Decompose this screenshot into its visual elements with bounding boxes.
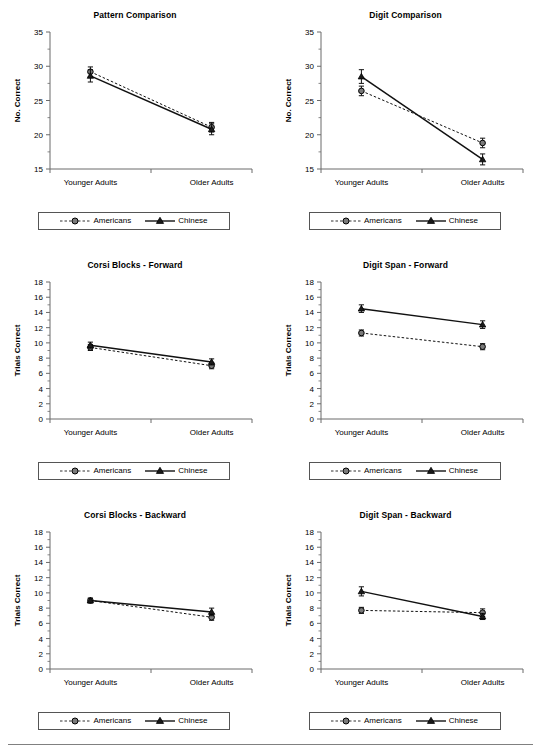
- y-axis-tick-label: 2: [39, 400, 44, 409]
- y-axis-tick-label: 20: [34, 131, 43, 140]
- chart-svg: 024681012141618Younger AdultsOlder Adult…: [271, 524, 541, 699]
- y-axis-tick-label: 20: [305, 131, 314, 140]
- y-axis-tick-label: 15: [34, 165, 43, 174]
- y-axis-tick-label: 18: [305, 528, 314, 537]
- legend-label-americans: Americans: [364, 216, 402, 226]
- chinese-line-marker-icon: [416, 216, 446, 226]
- panel-title: Pattern Comparison: [0, 10, 270, 21]
- y-axis-title: Trials Correct: [284, 574, 293, 626]
- legend-entry-americans: Americans: [331, 716, 402, 726]
- y-axis-tick-label: 2: [309, 650, 314, 659]
- plot-area: 1520253035Younger AdultsOlder AdultsNo. …: [271, 24, 541, 199]
- series-line: [90, 347, 211, 365]
- x-axis-category-label: Younger Adults: [334, 428, 388, 437]
- series-line: [361, 77, 482, 160]
- y-axis-tick-label: 4: [39, 635, 44, 644]
- data-point-circle-marker: [358, 330, 364, 336]
- americans-line-marker-icon: [331, 216, 361, 226]
- y-axis-tick-label: 10: [34, 589, 43, 598]
- legend-entry-chinese: Chinese: [416, 716, 478, 726]
- y-axis-tick-label: 35: [34, 28, 43, 37]
- footer-divider: [8, 744, 533, 745]
- y-axis-tick-label: 18: [305, 278, 314, 287]
- legend-entry-americans: Americans: [60, 216, 131, 226]
- legend-label-americans: Americans: [93, 716, 131, 726]
- series-line: [361, 591, 482, 616]
- y-axis-tick-label: 12: [305, 324, 314, 333]
- panel-grid: Pattern Comparison 1520253035Younger Adu…: [0, 0, 541, 750]
- panel-title: Corsi Blocks - Forward: [0, 260, 270, 271]
- x-axis-category-label: Younger Adults: [64, 428, 118, 437]
- chinese-line-marker-icon: [145, 716, 175, 726]
- y-axis-tick-label: 12: [305, 574, 314, 583]
- x-axis-category-label: Older Adults: [460, 678, 504, 687]
- series-line: [361, 333, 482, 347]
- legend-entry-chinese: Chinese: [145, 716, 207, 726]
- panel-digit-comparison: Digit Comparison 1520253035Younger Adult…: [271, 0, 541, 250]
- y-axis-tick-label: 25: [34, 97, 43, 106]
- y-axis-tick-label: 2: [309, 400, 314, 409]
- legend-label-americans: Americans: [93, 216, 131, 226]
- y-axis-tick-label: 6: [309, 619, 314, 628]
- y-axis-tick-label: 12: [34, 324, 43, 333]
- y-axis-tick-label: 16: [305, 543, 314, 552]
- americans-line-marker-icon: [331, 716, 361, 726]
- data-point-circle-marker: [479, 140, 485, 146]
- y-axis-tick-label: 16: [305, 293, 314, 302]
- series-line: [90, 601, 211, 612]
- legend-label-americans: Americans: [364, 716, 402, 726]
- y-axis-tick-label: 14: [34, 308, 43, 317]
- y-axis-tick-label: 15: [305, 165, 314, 174]
- legend-label-chinese: Chinese: [178, 216, 207, 226]
- series-line: [361, 309, 482, 325]
- legend-entry-chinese: Chinese: [416, 466, 478, 476]
- y-axis-tick-label: 0: [39, 665, 44, 674]
- chinese-line-marker-icon: [145, 216, 175, 226]
- x-axis-category-label: Older Adults: [460, 178, 504, 187]
- panel-digit-span-forward: Digit Span - Forward 024681012141618Youn…: [271, 250, 541, 500]
- plot-area: 024681012141618Younger AdultsOlder Adult…: [0, 274, 270, 449]
- y-axis-title: Trials Correct: [13, 324, 22, 376]
- y-axis-tick-label: 8: [39, 354, 44, 363]
- y-axis-tick-label: 6: [39, 619, 44, 628]
- legend-entry-chinese: Chinese: [416, 216, 478, 226]
- legend-entry-americans: Americans: [331, 216, 402, 226]
- y-axis-title: Trials Correct: [13, 574, 22, 626]
- panel-pattern-comparison: Pattern Comparison 1520253035Younger Adu…: [0, 0, 270, 250]
- legend: Americans Chinese: [38, 462, 230, 480]
- legend: Americans Chinese: [38, 212, 230, 230]
- panel-title: Digit Span - Backward: [271, 510, 541, 521]
- panel-digit-span-backward: Digit Span - Backward 024681012141618You…: [271, 500, 541, 750]
- legend-entry-chinese: Chinese: [145, 466, 207, 476]
- chinese-line-marker-icon: [416, 466, 446, 476]
- y-axis-title: Trials Correct: [284, 324, 293, 376]
- y-axis-tick-label: 18: [34, 278, 43, 287]
- legend: Americans Chinese: [309, 462, 501, 480]
- legend-entry-americans: Americans: [60, 716, 131, 726]
- y-axis-tick-label: 4: [309, 635, 314, 644]
- chinese-line-marker-icon: [145, 466, 175, 476]
- x-axis-category-label: Older Adults: [460, 428, 504, 437]
- y-axis-tick-label: 14: [305, 558, 314, 567]
- series-line: [90, 72, 211, 127]
- y-axis-tick-label: 16: [34, 293, 43, 302]
- legend: Americans Chinese: [38, 712, 230, 730]
- plot-area: 024681012141618Younger AdultsOlder Adult…: [0, 524, 270, 699]
- y-axis-tick-label: 25: [305, 97, 314, 106]
- y-axis-tick-label: 8: [309, 604, 314, 613]
- y-axis-tick-label: 6: [309, 369, 314, 378]
- y-axis-tick-label: 4: [309, 385, 314, 394]
- x-axis-category-label: Older Adults: [190, 678, 234, 687]
- panel-title: Corsi Blocks - Backward: [0, 510, 270, 521]
- series-line: [90, 76, 211, 129]
- y-axis-tick-label: 2: [39, 650, 44, 659]
- panel-title: Digit Span - Forward: [271, 260, 541, 271]
- data-point-circle-marker: [358, 88, 364, 94]
- chinese-line-marker-icon: [416, 716, 446, 726]
- americans-line-marker-icon: [60, 216, 90, 226]
- legend-label-chinese: Chinese: [449, 716, 478, 726]
- legend-entry-americans: Americans: [60, 466, 131, 476]
- y-axis-title: No. Correct: [13, 78, 22, 122]
- chart-svg: 024681012141618Younger AdultsOlder Adult…: [0, 274, 270, 449]
- series-line: [90, 345, 211, 362]
